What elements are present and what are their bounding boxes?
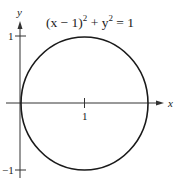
y-tick-label-neg1: −1 (2, 164, 14, 176)
chart-canvas: y x 1 −1 1 (x − 1)2 + y2 = 1 (0, 0, 174, 178)
equation-title: (x − 1)2 + y2 = 1 (46, 13, 134, 30)
x-axis-arrow-icon (156, 101, 164, 106)
y-axis-label: y (16, 6, 22, 18)
eq-base: (x − 1) (46, 15, 83, 30)
eq-rhs: = 1 (113, 15, 134, 30)
y-tick-label-1: 1 (8, 30, 14, 42)
eq-mid: + y (87, 15, 108, 30)
x-tick-label-1: 1 (82, 110, 88, 122)
x-axis-label: x (167, 97, 173, 109)
y-axis-arrow-icon (18, 21, 23, 29)
